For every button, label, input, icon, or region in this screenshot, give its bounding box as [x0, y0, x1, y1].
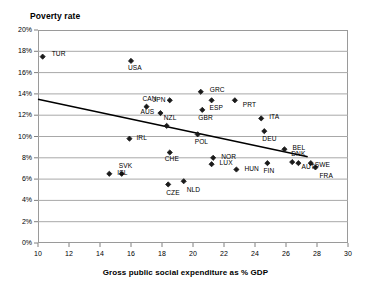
y-tick-label: 2% — [2, 218, 32, 225]
data-point-marker — [259, 116, 264, 121]
y-tick-label: 4% — [2, 196, 32, 203]
data-point-marker — [234, 167, 239, 172]
trend-line — [38, 99, 308, 157]
y-tick-label: 10% — [2, 133, 32, 140]
data-point-label: TUR — [52, 50, 66, 57]
data-point-label: SVK — [119, 162, 133, 169]
data-point-marker — [128, 58, 133, 63]
data-point-marker — [211, 155, 216, 160]
y-tick-label: 18% — [2, 47, 32, 54]
data-point-label: LUX — [220, 159, 233, 166]
data-point-label: USA — [128, 64, 142, 71]
data-point-marker — [107, 171, 112, 176]
data-point-label: NZL — [164, 114, 177, 121]
y-tick-label: 20% — [2, 26, 32, 33]
x-tick-label: 16 — [119, 250, 143, 257]
data-point-label: FIN — [263, 167, 274, 174]
x-tick-label: 18 — [150, 250, 174, 257]
x-axis-title: Gross public social expenditure as % GDP — [0, 268, 371, 277]
trend-line-segment — [38, 99, 308, 157]
x-tick-label: 22 — [212, 250, 236, 257]
y-tick-label: 12% — [2, 111, 32, 118]
data-point-marker — [290, 159, 295, 164]
data-point-label: ISL — [117, 169, 127, 176]
data-point-marker — [40, 54, 45, 59]
data-point-label: DNK — [291, 150, 305, 157]
data-point-marker — [296, 161, 301, 166]
x-tick-label: 12 — [57, 250, 81, 257]
data-point-marker — [232, 98, 237, 103]
data-point-marker — [166, 182, 171, 187]
data-point-label: DEU — [262, 135, 276, 142]
y-tick-label: 16% — [2, 69, 32, 76]
data-point-label: ITA — [269, 113, 279, 120]
x-tick-label: 28 — [305, 250, 329, 257]
data-point-marker — [167, 150, 172, 155]
x-tick-label: 20 — [181, 250, 205, 257]
data-point-label: NLD — [187, 186, 201, 193]
y-tick-label: 14% — [2, 90, 32, 97]
data-point-label: GBR — [198, 114, 213, 121]
data-point-label: AUT — [301, 163, 315, 170]
data-point-label: AUS — [140, 108, 154, 115]
data-point-marker — [209, 162, 214, 167]
data-point-marker — [200, 107, 205, 112]
poverty-rate-scatter-chart: Poverty rate TURUSAGRCCANJPNESPPRTAUSGBR… — [0, 0, 371, 293]
x-tick-label: 24 — [243, 250, 267, 257]
x-tick-label: 10 — [26, 250, 50, 257]
axis-tick-marks — [34, 30, 348, 247]
y-tick-label: 8% — [2, 154, 32, 161]
data-point-label: FRA — [319, 172, 333, 179]
data-point-label: HUN — [244, 165, 259, 172]
data-point-label: GRC — [210, 86, 225, 93]
data-point-label: IRL — [136, 134, 147, 141]
data-point-label: JPN — [153, 96, 166, 103]
y-tick-label: 0% — [2, 239, 32, 246]
gridlines — [38, 51, 348, 221]
y-tick-label: 6% — [2, 175, 32, 182]
data-point-label: CZE — [166, 189, 180, 196]
x-tick-label: 26 — [274, 250, 298, 257]
data-point-marker — [265, 161, 270, 166]
data-point-marker — [167, 98, 172, 103]
data-point-label: SWE — [315, 161, 330, 168]
data-point-label: ESP — [210, 104, 224, 111]
data-point-marker — [209, 98, 214, 103]
data-point-label: PRT — [243, 101, 256, 108]
data-point-label: POL — [195, 138, 209, 145]
data-point-marker — [262, 129, 267, 134]
x-tick-label: 30 — [336, 250, 360, 257]
x-tick-label: 14 — [88, 250, 112, 257]
data-points — [40, 54, 318, 187]
data-point-label: CHE — [165, 155, 179, 162]
